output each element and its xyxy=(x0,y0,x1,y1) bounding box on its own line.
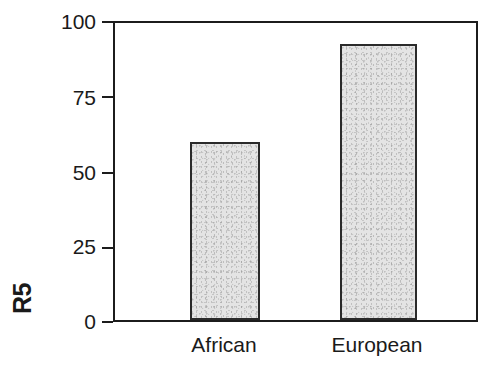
y-tick-mark-75 xyxy=(102,96,113,98)
y-tick-label-text: 25 xyxy=(36,236,96,257)
y-tick-mark-50 xyxy=(102,172,113,174)
y-tick-label-100: 100 xyxy=(28,10,96,32)
y-tick-label-50: 50 xyxy=(28,161,96,183)
y-tick-label-75: 75 xyxy=(28,86,96,108)
x-axis-label-african: African xyxy=(164,334,284,355)
y-tick-label-25: 25 xyxy=(28,235,96,257)
y-tick-label-text: 50 xyxy=(36,162,96,183)
bar-european[interactable] xyxy=(340,44,417,320)
y-axis-title-text: R5 xyxy=(8,283,37,314)
bar-chart-figure: R5 100 75 50 25 0 African European xyxy=(0,0,493,370)
y-tick-label-text: 100 xyxy=(36,11,96,32)
y-tick-label-text: 0 xyxy=(36,311,96,332)
y-tick-label-text: 75 xyxy=(36,87,96,108)
x-axis-label-european: European xyxy=(317,334,437,355)
plot-area xyxy=(113,21,478,322)
y-tick-mark-25 xyxy=(102,247,113,249)
y-tick-mark-0 xyxy=(102,321,113,323)
y-tick-label-0: 0 xyxy=(28,310,96,332)
y-tick-mark-100 xyxy=(102,21,113,23)
bar-african[interactable] xyxy=(190,142,260,320)
